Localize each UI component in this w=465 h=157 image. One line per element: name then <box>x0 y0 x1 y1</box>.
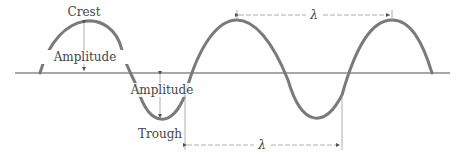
amplitude-top-label: Amplitude <box>53 50 117 64</box>
wave-curve <box>40 20 432 119</box>
wave-diagram: Amplitude Crest Amplitude Trough λ λ <box>0 0 465 157</box>
trough-label: Trough <box>138 127 182 141</box>
wavelength-bottom-label: λ <box>257 138 266 152</box>
amplitude-bottom-label: Amplitude <box>130 83 194 97</box>
crest-label: Crest <box>68 5 101 19</box>
wavelength-top-label: λ <box>309 8 318 22</box>
